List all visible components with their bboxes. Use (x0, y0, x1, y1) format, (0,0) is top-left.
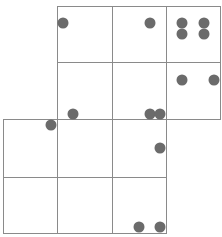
dot-marker (177, 18, 188, 29)
grid-cell (3, 177, 58, 234)
dot-marker (155, 222, 166, 233)
dot-marker (68, 109, 79, 120)
grid-cell (57, 6, 113, 63)
dot-marker (199, 29, 210, 40)
dot-marker (177, 29, 188, 40)
dot-marker (155, 143, 166, 154)
grid-cell (166, 6, 221, 63)
grid-cell (166, 62, 221, 120)
dot-marker (145, 18, 156, 29)
grid-cell (57, 119, 113, 178)
dot-marker (155, 109, 166, 120)
grid-cell (57, 177, 113, 234)
dot-marker (46, 120, 57, 131)
dot-marker (177, 75, 188, 86)
dot-marker (58, 18, 69, 29)
dot-marker (199, 18, 210, 29)
dot-marker (209, 75, 220, 86)
grid-cell (112, 6, 167, 63)
dot-marker (134, 222, 145, 233)
grid-cell (57, 62, 113, 120)
